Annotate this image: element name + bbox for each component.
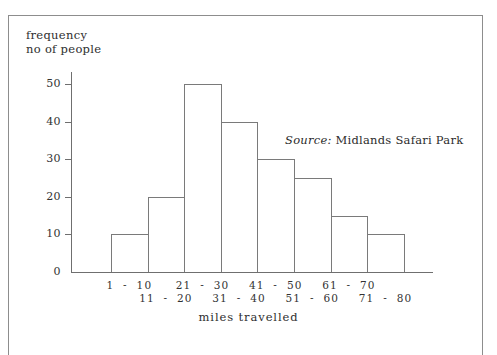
x-axis-title: miles travelled <box>0 310 497 324</box>
source-keyword: Source: <box>285 133 332 147</box>
source-annotation: Source: Midlands Safari Park <box>285 133 463 147</box>
y-tick-30 <box>65 159 72 160</box>
y-tick-label-30: 30 <box>31 152 61 165</box>
bar-6 <box>294 178 332 272</box>
x-category-label-4: 31 - 40 <box>197 292 281 304</box>
y-axis-title-line2: no of people <box>26 42 101 56</box>
bar-8 <box>367 234 405 272</box>
y-axis-line <box>71 72 72 273</box>
y-tick-label-50: 50 <box>31 77 61 90</box>
x-category-label-6: 51 - 60 <box>270 292 354 304</box>
y-tick-label-10: 10 <box>31 227 61 240</box>
x-category-label-7: 61 - 70 <box>307 279 391 291</box>
y-tick-label-40: 40 <box>31 115 61 128</box>
x-category-label-3: 21 - 30 <box>161 279 245 291</box>
y-axis-title-line1: frequency <box>26 28 87 42</box>
x-category-label-8: 71 - 80 <box>344 292 428 304</box>
y-tick-label-0: 0 <box>31 265 61 278</box>
y-tick-10 <box>65 234 72 235</box>
y-tick-label-20: 20 <box>31 190 61 203</box>
y-tick-20 <box>65 197 72 198</box>
y-tick-50 <box>65 84 72 85</box>
bar-3 <box>184 84 222 272</box>
x-axis-line <box>71 272 433 273</box>
bar-5 <box>257 159 295 272</box>
bar-2 <box>148 197 186 272</box>
bar-7 <box>331 216 369 272</box>
x-category-label-1: 1 - 10 <box>87 279 171 291</box>
bar-1 <box>111 234 149 272</box>
bar-4 <box>221 122 259 272</box>
source-text: Midlands Safari Park <box>335 133 463 147</box>
y-tick-40 <box>65 122 72 123</box>
x-category-label-2: 11 - 20 <box>124 292 208 304</box>
x-category-label-5: 41 - 50 <box>234 279 318 291</box>
